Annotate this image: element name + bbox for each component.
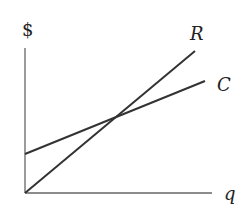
y-axis-label: $ [22,19,33,40]
revenue-line [25,51,195,193]
break-even-chart: $ q R C [0,0,248,208]
revenue-label: R [189,23,204,44]
cost-label: C [217,74,231,95]
x-axis-label: q [224,183,236,204]
